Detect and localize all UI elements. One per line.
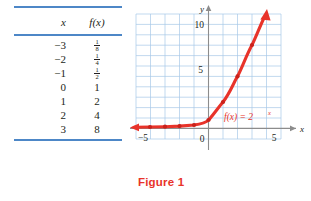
table-row: −1 1 2 (14, 67, 122, 80)
data-point (148, 125, 152, 129)
ytick-label-5: 5 (198, 65, 203, 75)
data-point (206, 118, 210, 122)
header-fx: f(x) (72, 16, 122, 29)
cell-fx: 1 8 (72, 38, 122, 52)
table-row: 1 2 (14, 95, 122, 108)
curve-label-text: f(x) = 2 (224, 112, 253, 123)
x-axis-label: x (299, 124, 304, 134)
value-table: x f(x) −3 1 8 −2 1 4 −1 (14, 6, 122, 142)
table-row: 2 4 (14, 109, 122, 122)
table-header-row: x f(x) (14, 16, 122, 29)
cell-x: 1 (14, 95, 72, 108)
table-bottom-rule (14, 139, 122, 141)
curve-equation-label: f(x) = 2 x (224, 109, 271, 123)
fraction: 1 4 (94, 53, 99, 67)
table-row: 0 1 (14, 81, 122, 94)
table-top-rule (14, 6, 122, 8)
table-header-rule (14, 34, 122, 36)
coordinate-plane: x y −5 0 5 5 10 (128, 0, 311, 160)
figure-container: x f(x) −3 1 8 −2 1 4 −1 (0, 0, 311, 201)
xtick-label-0: 0 (200, 134, 205, 144)
figure-caption: Figure 1 (138, 176, 184, 188)
cell-fx: 8 (72, 123, 122, 136)
curve-label-exponent: x (267, 109, 271, 116)
data-point (177, 124, 181, 128)
fraction: 1 8 (94, 39, 99, 53)
xtick-label-neg5: −5 (138, 133, 148, 143)
graph-svg: x y −5 0 5 5 10 (128, 0, 311, 160)
y-axis-label: y (199, 4, 204, 14)
data-point (235, 74, 239, 78)
cell-fx: 1 (72, 81, 122, 94)
cell-fx: 2 (72, 95, 122, 108)
data-point (192, 123, 196, 127)
cell-x: −3 (14, 39, 72, 52)
cell-x: 3 (14, 123, 72, 136)
cell-fx: 1 4 (72, 52, 122, 66)
data-point (163, 125, 167, 129)
ytick-label-10: 10 (195, 20, 205, 30)
data-point (221, 100, 225, 104)
cell-x: 2 (14, 109, 72, 122)
cell-fx: 4 (72, 109, 122, 122)
table-row: −3 1 8 (14, 39, 122, 52)
cell-x: 0 (14, 81, 72, 94)
data-point (250, 43, 254, 47)
xtick-label-5: 5 (272, 133, 277, 143)
cell-x: −1 (14, 67, 72, 80)
cell-fx: 1 2 (72, 66, 122, 80)
table-row: 3 8 (14, 123, 122, 136)
header-x: x (14, 16, 72, 29)
cell-x: −2 (14, 53, 72, 66)
fraction: 1 2 (94, 67, 99, 81)
table-row: −2 1 4 (14, 53, 122, 66)
